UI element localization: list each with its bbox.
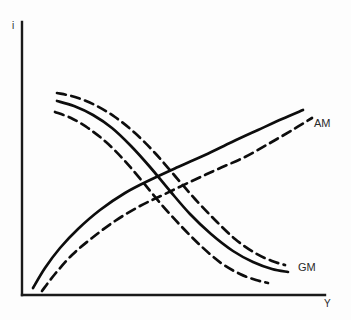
curve-am xyxy=(33,110,303,288)
am-curve-label: AM xyxy=(314,117,331,129)
curve-gm-lower xyxy=(55,112,268,283)
gm-curve-label: GM xyxy=(298,261,316,273)
figure-root: i Y AM GM xyxy=(0,0,351,320)
curve-am-shifted xyxy=(42,118,312,291)
curve-group xyxy=(33,93,312,291)
y-axis-label: i xyxy=(12,20,14,31)
chart-canvas: i Y AM GM xyxy=(0,0,351,320)
curve-gm xyxy=(57,101,288,272)
x-axis-label: Y xyxy=(324,298,331,309)
